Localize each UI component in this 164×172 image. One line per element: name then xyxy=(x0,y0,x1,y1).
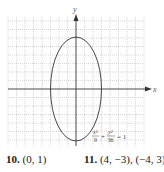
answer-11: 11. (4, −3), (−4, 3) xyxy=(84,153,164,165)
equation-label: x² 9 + y² 36 = 1 xyxy=(92,129,127,143)
y-axis-arrow-icon xyxy=(74,14,79,21)
svg-text:y²: y² xyxy=(107,129,113,135)
x-axis-label: x xyxy=(152,85,157,94)
svg-text:x²: x² xyxy=(92,129,98,135)
svg-text:+: + xyxy=(101,133,105,141)
ellipse-graph: x y x² 9 + y² 36 = 1 xyxy=(0,0,164,150)
svg-text:9: 9 xyxy=(94,137,97,143)
answer-number: 11. xyxy=(84,153,97,165)
answer-value: (4, −3), (−4, 3) xyxy=(100,153,164,165)
x-axis-arrow-icon xyxy=(145,87,152,92)
svg-text:36: 36 xyxy=(108,137,114,143)
answer-number: 10. xyxy=(6,153,20,165)
answer-value: (0, 1) xyxy=(23,153,47,165)
svg-text:= 1: = 1 xyxy=(117,133,127,141)
answer-10: 10. (0, 1) xyxy=(6,153,46,165)
y-axis-label: y xyxy=(72,5,77,14)
